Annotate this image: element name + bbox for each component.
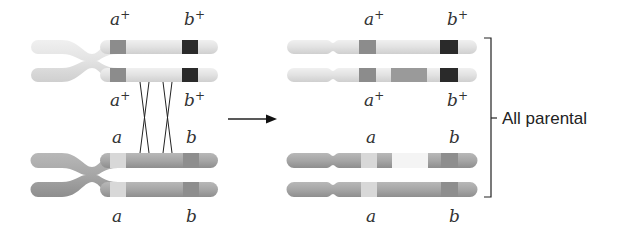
label-a: a xyxy=(112,206,122,226)
label-a-plus: a+ xyxy=(110,89,130,110)
right-chromatid-3 xyxy=(287,153,478,168)
right-chromatid-1 xyxy=(287,40,477,54)
exchanged-segment xyxy=(392,153,428,168)
label-b: b xyxy=(449,127,460,147)
b-plus-band xyxy=(182,68,198,82)
a-plus-band xyxy=(110,40,126,54)
label-a-plus: a+ xyxy=(364,8,384,29)
a-plus-band xyxy=(359,68,376,82)
all-parental-label: All parental xyxy=(502,109,587,128)
b-band xyxy=(183,182,199,197)
exchanged-segment xyxy=(391,68,427,82)
right-arrow-icon xyxy=(228,115,277,124)
double-crossover-diagram: a+ b+ a+ b+ a b a b a+ b xyxy=(0,0,639,236)
label-b-plus: b+ xyxy=(184,8,205,29)
label-a: a xyxy=(366,206,376,226)
a-band xyxy=(361,182,377,197)
b-plus-band xyxy=(440,40,458,54)
label-a-plus: a+ xyxy=(110,8,130,29)
label-a: a xyxy=(112,127,122,147)
a-band xyxy=(110,182,126,197)
b-band xyxy=(183,153,199,168)
label-b: b xyxy=(186,127,197,147)
a-band xyxy=(361,153,377,168)
left-top-homolog xyxy=(31,40,218,82)
label-b: b xyxy=(449,206,460,226)
b-band xyxy=(441,153,458,168)
b-plus-band xyxy=(440,68,458,82)
label-b-plus: b+ xyxy=(447,89,468,110)
bracket xyxy=(484,38,497,197)
label-a-plus: a+ xyxy=(364,89,384,110)
a-plus-band xyxy=(359,40,376,54)
b-band xyxy=(441,182,458,197)
right-chromatid-2 xyxy=(287,68,477,82)
right-chromatid-4 xyxy=(287,182,478,197)
label-b-plus: b+ xyxy=(184,89,205,110)
a-band xyxy=(110,153,126,168)
a-plus-band xyxy=(110,68,126,82)
label-a: a xyxy=(366,127,376,147)
label-b: b xyxy=(186,206,197,226)
crossover-lines xyxy=(140,82,172,153)
label-b-plus: b+ xyxy=(447,8,468,29)
left-bottom-homolog xyxy=(31,153,219,197)
b-plus-band xyxy=(182,40,198,54)
